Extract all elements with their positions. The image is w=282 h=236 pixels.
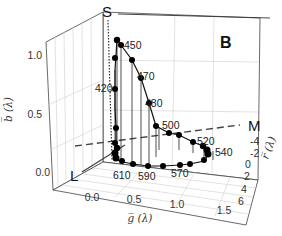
wl-610: 610 — [113, 169, 131, 181]
chart-3d: 450 470 420 480 500 520 540 570 590 610 … — [0, 0, 282, 236]
svg-text:-4: -4 — [250, 135, 259, 147]
svg-text:2: 2 — [244, 170, 250, 182]
z-axis-ticks: 1.0 0.5 0.0 — [27, 49, 50, 178]
grid-back-wall — [103, 12, 260, 180]
wl-480: 480 — [145, 97, 163, 109]
grid-left-wall — [46, 12, 103, 190]
y-axis-label: r̅ (λ) — [259, 135, 278, 161]
svg-text:0.0: 0.0 — [85, 191, 100, 203]
wl-540: 540 — [215, 146, 233, 158]
wl-420: 420 — [95, 82, 113, 94]
panel-label: B — [220, 34, 232, 51]
svg-text:6: 6 — [238, 195, 244, 207]
l-axis-label: L — [70, 167, 78, 184]
wl-570: 570 — [171, 167, 189, 179]
svg-text:1.0: 1.0 — [27, 49, 42, 61]
svg-text:1.5: 1.5 — [217, 204, 232, 216]
x-axis-label: g̅ (λ) — [128, 212, 153, 224]
m-axis-label: M — [248, 117, 261, 134]
wl-470: 470 — [137, 70, 155, 82]
s-axis-label: S — [102, 3, 112, 20]
svg-text:0: 0 — [245, 158, 251, 170]
wl-590: 590 — [138, 170, 156, 182]
svg-text:4: 4 — [241, 183, 247, 195]
wl-520: 520 — [197, 135, 215, 147]
svg-text:0.5: 0.5 — [27, 108, 42, 120]
svg-text:0.0: 0.0 — [35, 166, 50, 178]
wl-450: 450 — [124, 39, 142, 51]
svg-text:0.5: 0.5 — [127, 193, 142, 205]
z-axis-label: b̅ (λ) — [1, 97, 14, 123]
svg-text:1.0: 1.0 — [170, 198, 185, 210]
wl-500: 500 — [162, 119, 180, 131]
